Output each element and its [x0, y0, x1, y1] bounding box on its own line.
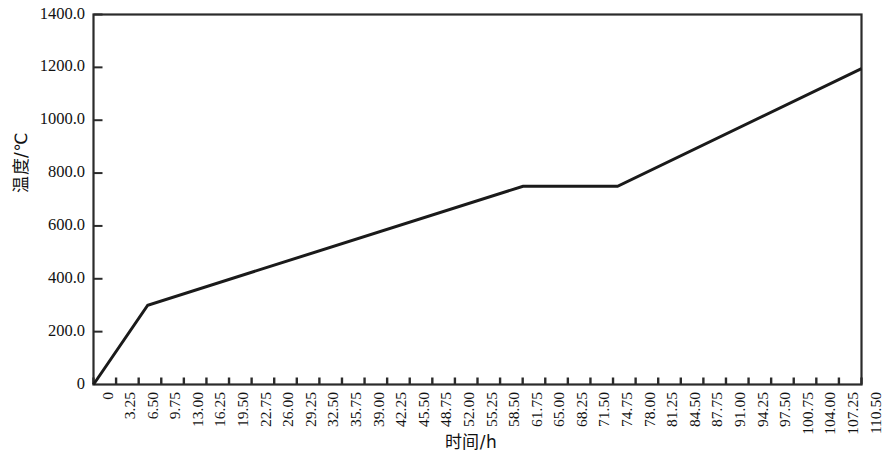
temperature-curve [94, 69, 862, 385]
x-axis-title: 时间/h [0, 428, 872, 453]
y-axis-ticks [94, 15, 103, 332]
x-axis-title-text: 时间/h [445, 432, 498, 452]
